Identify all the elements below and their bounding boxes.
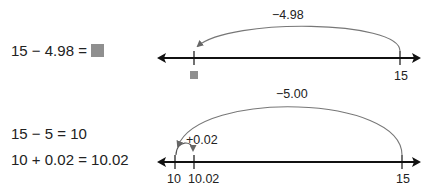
solution-step-1: 15 − 5 = 10 (11, 125, 87, 142)
small-jump-label: +0.02 (186, 133, 218, 147)
tick-label-10-02: 10.02 (188, 172, 219, 186)
big-jump-label: −5.00 (276, 87, 308, 101)
tick-label-15-bottom: 15 (396, 172, 410, 186)
jump-label: −4.98 (272, 8, 304, 22)
unknown-square-icon (190, 71, 198, 79)
tick-label-15: 15 (394, 69, 408, 83)
problem-number-line (157, 26, 421, 79)
tick-label-10: 10 (167, 172, 181, 186)
solution-step-2: 10 + 0.02 = 10.02 (11, 151, 129, 168)
